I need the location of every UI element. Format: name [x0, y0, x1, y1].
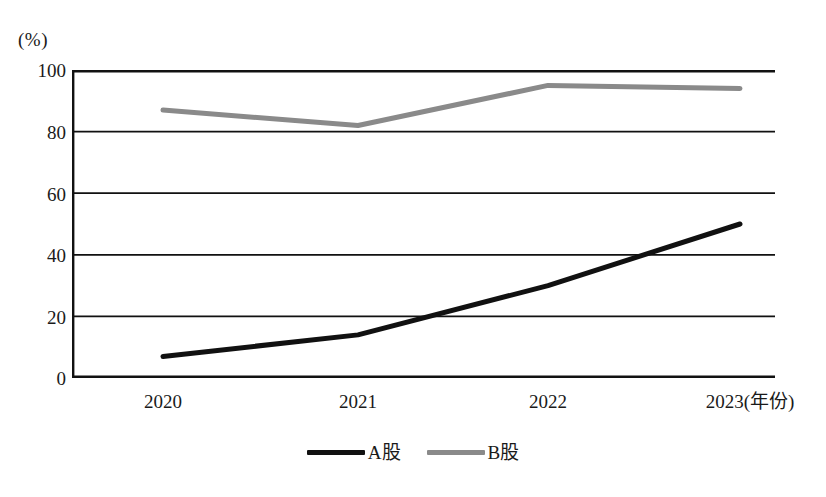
series-line-A股	[163, 224, 740, 356]
y-axis-tick-labels: 100 80 60 40 20 0	[0, 0, 66, 497]
legend-swatch-b-icon	[427, 450, 485, 455]
x-tick-label-2021: 2021	[339, 392, 377, 411]
legend-swatch-a-icon	[307, 450, 365, 455]
chart-legend: A股 B股	[0, 443, 826, 462]
legend-label-a: A股	[368, 443, 401, 462]
x-tick-label-2023: 2023(年份)	[706, 392, 795, 411]
legend-label-b: B股	[488, 443, 520, 462]
y-tick-label-60: 60	[4, 185, 66, 204]
y-tick-label-100: 100	[4, 61, 66, 80]
chart-canvas	[72, 70, 775, 378]
y-tick-label-20: 20	[4, 308, 66, 327]
y-tick-label-0: 0	[4, 369, 66, 388]
y-tick-label-40: 40	[4, 246, 66, 265]
gridlines	[72, 71, 775, 377]
plot-area	[72, 70, 775, 378]
line-chart: (%) 100 80 60 40 20 0 2020 2021 2022 202…	[0, 0, 826, 497]
y-tick-label-80: 80	[4, 123, 66, 142]
x-tick-label-2022: 2022	[529, 392, 567, 411]
legend-item-b: B股	[427, 443, 520, 462]
x-tick-label-2020: 2020	[144, 392, 182, 411]
series-line-B股	[163, 85, 740, 125]
legend-item-a: A股	[307, 443, 401, 462]
